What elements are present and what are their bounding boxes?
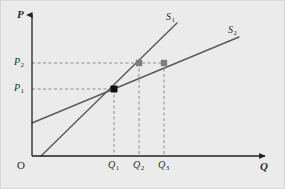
x-axis-label: Q: [260, 161, 268, 172]
supply-curve-s2: [32, 37, 239, 123]
y-tick-label-p2: P2: [14, 57, 24, 67]
x-tick-label-q3-sub: 3: [165, 164, 169, 172]
curve-label-s1: S1: [166, 12, 175, 22]
x-tick-label-q1-sub: 1: [115, 164, 119, 172]
origin-label: O: [17, 160, 25, 171]
x-tick-label-q2: Q2: [133, 160, 144, 170]
curve-label-s1-sub: 1: [171, 16, 175, 24]
y-axis-label: P: [17, 9, 24, 20]
x-tick-label-q3: Q3: [158, 160, 169, 170]
x-tick-label-q2-sub: 2: [140, 164, 144, 172]
marker-point-s2-p2: [161, 60, 167, 66]
marker-equilibrium-q1-p1: [111, 86, 118, 93]
y-tick-label-p2-sub: 2: [20, 61, 24, 69]
curve-label-s2-sub: 2: [233, 29, 237, 37]
y-tick-label-p1: P1: [14, 83, 24, 93]
supply-curves-figure: P Q O P1 P2 Q1 Q2 Q3 S1 S2: [0, 0, 285, 189]
marker-point-s1-p2: [136, 60, 142, 66]
axes-group: [32, 15, 265, 156]
supply-curves-group: [32, 23, 239, 156]
x-tick-label-q1: Q1: [108, 160, 119, 170]
curve-label-s2: S2: [228, 25, 237, 35]
y-tick-label-p1-sub: 1: [20, 87, 24, 95]
